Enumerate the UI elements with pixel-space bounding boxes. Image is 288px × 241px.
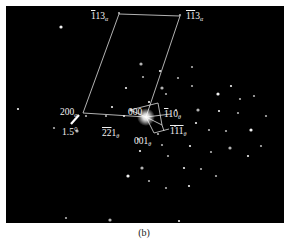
diffraction-spot [108,218,111,221]
diffraction-spot [161,144,163,146]
diffraction-overlay [6,6,284,223]
diffraction-spot [139,150,141,152]
diffraction-spot [218,110,220,112]
diffraction-spot [191,85,193,87]
diffraction-spot [208,129,210,131]
diffraction-spot [85,115,87,117]
diffraction-spot [239,98,241,100]
diffraction-spot [183,167,185,169]
figure-caption: (b) [0,228,288,238]
label-1bar1bar3-alpha: 113α [186,12,203,22]
diffraction-spot [125,87,127,89]
diffraction-spot [265,115,267,117]
diffraction-spot [178,220,180,222]
diffraction-spot [177,77,179,79]
diffraction-spot [196,108,199,111]
label-110-theta: 110θ [164,110,181,120]
diffraction-spot [65,217,67,219]
diffraction-spot [160,86,163,89]
diffraction-spot [253,95,255,97]
diffraction-spot [142,76,144,78]
diffraction-spot [17,108,19,110]
diffraction-spot [188,185,190,187]
diffraction-spot [139,62,142,65]
label-111-theta: 111θ [170,127,187,137]
diffraction-spot [225,130,227,132]
label-113-alpha: 113α [91,12,108,22]
diffraction-spot [228,146,231,149]
diffraction-spot [247,155,249,157]
diffraction-spot [165,187,167,189]
diffraction-spot [195,122,197,124]
diffraction-spot [216,92,219,95]
label-000: 000 [128,108,142,118]
diffraction-spot [260,145,262,147]
diffraction-pattern-figure: 113α 113α 200α 1.5° 000 221θ 110θ 111θ 0… [6,6,284,223]
diffraction-spot [191,66,193,68]
diffraction-spot [111,106,113,108]
label-001-theta: 001θ [134,137,151,147]
diffraction-spot [140,166,143,169]
diffraction-spot [167,155,169,157]
diffraction-spot [59,25,62,28]
diffraction-spot [210,151,212,153]
diffraction-spot [126,174,129,177]
diffraction-spot [215,175,217,177]
diffraction-spot [237,112,239,114]
diffraction-spot [200,168,202,170]
diffraction-spot [53,127,55,129]
label-200-alpha: 200α [60,108,77,118]
label-221-theta: 221θ [102,129,119,139]
diffraction-spot [159,70,161,72]
diffraction-spot [165,93,167,95]
diffraction-spot [230,85,232,87]
diffraction-spot [249,128,252,131]
diffraction-spot [148,180,150,182]
diffraction-spot [148,101,150,103]
diffraction-spot [189,145,191,147]
diffraction-spot [157,133,159,135]
diffraction-spot [105,115,107,117]
label-angle: 1.5° [62,128,78,138]
